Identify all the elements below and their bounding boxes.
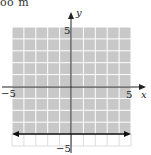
y-axis-arrow-icon bbox=[68, 12, 74, 19]
y-axis-label: y bbox=[75, 7, 82, 18]
y-max-label: 5 bbox=[64, 25, 70, 36]
coordinate-plane: y 5 −5 5 x −5 bbox=[0, 0, 151, 155]
y-min-label: −5 bbox=[56, 143, 71, 154]
x-max-label: 5 bbox=[126, 89, 132, 100]
x-axis-label: x bbox=[141, 89, 147, 100]
x-min-label: −5 bbox=[1, 88, 16, 99]
